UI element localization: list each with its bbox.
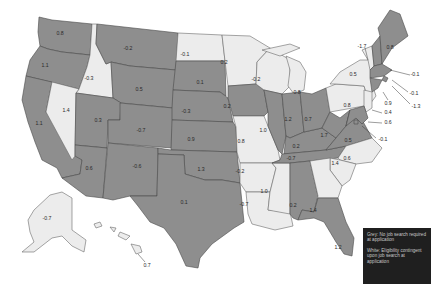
state-label-nj: 0.4 <box>384 109 391 115</box>
state-label-ca: 1.1 <box>35 120 42 126</box>
state-label-wi: -0.2 <box>252 76 261 82</box>
state-label-mi: 0.8 <box>293 89 300 95</box>
legend-box: Grey: No job search required at applicat… <box>363 228 431 284</box>
state-label-mt: -0.2 <box>124 45 133 51</box>
state-ct <box>370 78 382 92</box>
state-label-mo: 0.8 <box>237 138 244 144</box>
state-label-co: -0.7 <box>137 127 146 133</box>
state-label-mn: 0.2 <box>220 59 227 65</box>
state-label-nc: 0.6 <box>343 155 350 161</box>
state-label-al: 0.2 <box>289 202 296 208</box>
state-ri <box>382 76 388 82</box>
state-label-sd: 0.1 <box>196 79 203 85</box>
state-label-ms: 1.0 <box>260 188 267 194</box>
state-hi <box>94 222 142 254</box>
state-ks <box>171 120 237 152</box>
state-label-or: 1.1 <box>41 62 48 68</box>
state-label-hi: 0.7 <box>143 262 150 268</box>
state-label-vt: -1.7 <box>358 43 367 49</box>
state-nm <box>103 143 158 200</box>
state-label-la: -0.7 <box>240 201 249 207</box>
callout-line-md <box>368 122 382 123</box>
state-label-id: -0.3 <box>85 75 94 81</box>
callout-line-hi <box>138 254 145 262</box>
state-label-ct: 0.9 <box>384 100 391 106</box>
state-label-ma: -0.1 <box>410 90 419 96</box>
state-ar <box>240 163 276 192</box>
state-label-md: 0.6 <box>384 119 391 125</box>
state-dc <box>354 120 358 124</box>
state-label-nh: -0.1 <box>411 71 420 77</box>
state-label-ak: -0.7 <box>43 215 52 221</box>
state-label-ky: 0.2 <box>292 143 299 149</box>
callout-line-nh <box>390 70 410 75</box>
state-label-ia: 0.2 <box>223 103 230 109</box>
state-label-ks: 0.9 <box>187 136 194 142</box>
legend-grey: Grey: No job search required at applicat… <box>367 232 427 243</box>
state-label-nd: -0.1 <box>181 51 190 57</box>
state-label-fl: 1.2 <box>334 244 341 250</box>
state-label-va: 0.5 <box>344 137 351 143</box>
legend-white: White: Eligibility contingent upon job s… <box>367 248 427 264</box>
state-mt <box>96 24 178 70</box>
state-label-ut: 0.3 <box>94 117 101 123</box>
state-label-ga: 1.4 <box>309 207 316 213</box>
state-label-wy: 0.5 <box>135 86 142 92</box>
state-me <box>378 10 408 64</box>
state-wy <box>111 62 176 108</box>
callout-line-ri <box>392 86 410 104</box>
callout-line-ma <box>392 80 408 92</box>
callout-line-ct <box>383 92 388 100</box>
state-label-ri: -1.3 <box>412 103 421 109</box>
state-label-nm: -0.6 <box>133 163 142 169</box>
state-label-wa: 0.8 <box>56 30 63 36</box>
state-label-dc: -0.1 <box>379 136 388 142</box>
state-label-wv: 1.7 <box>320 132 327 138</box>
state-label-pa: 0.8 <box>343 102 350 108</box>
state-label-nv: 1.4 <box>62 107 69 113</box>
callout-line-nj <box>372 110 382 113</box>
state-label-tn: -0.7 <box>287 155 296 161</box>
state-label-il: 1.0 <box>259 127 266 133</box>
state-label-tx: 0.1 <box>180 199 187 205</box>
state-ak <box>22 192 86 252</box>
state-label-ok: 1.3 <box>197 166 204 172</box>
state-label-az: 0.6 <box>85 165 92 171</box>
state-label-ne: -0.3 <box>182 108 191 114</box>
state-label-oh: 0.7 <box>304 116 311 122</box>
state-label-ny: 0.5 <box>349 71 356 77</box>
state-label-ar: -0.2 <box>236 168 245 174</box>
state-label-sc: 1.4 <box>331 160 338 166</box>
state-label-in: 1.2 <box>284 116 291 122</box>
state-label-me: 0.8 <box>386 44 393 50</box>
